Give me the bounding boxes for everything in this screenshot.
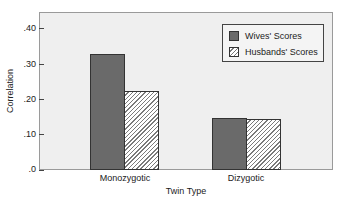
y-tick-label: .20 [23, 94, 36, 104]
bar-dizygotic-husbands [246, 119, 281, 170]
x-tick-label-dizygotic: Dizygotic [228, 173, 265, 183]
legend-label: Husbands' Scores [245, 47, 318, 57]
y-axis-label: Correlation [5, 69, 15, 113]
y-tick-0 [39, 170, 44, 171]
y-tick-20 [39, 99, 44, 100]
bar-dizygotic-wives [212, 118, 247, 170]
y-tick-label: .30 [23, 59, 36, 69]
y-tick-label: .0 [28, 164, 36, 174]
x-axis-label: Twin Type [166, 186, 206, 196]
y-tick-30 [39, 64, 44, 65]
legend-item-husbands: Husbands' Scores [229, 46, 318, 58]
legend-label: Wives' Scores [245, 31, 302, 41]
bar-monozygotic-wives [90, 54, 125, 170]
bar-monozygotic-husbands [124, 91, 159, 170]
y-tick-40 [39, 28, 44, 29]
y-tick-label: .10 [23, 129, 36, 139]
y-tick-10 [39, 134, 44, 135]
hatched-swatch-icon [229, 47, 239, 57]
x-tick-label-monozygotic: Monozygotic [100, 173, 151, 183]
solid-swatch-icon [229, 31, 239, 41]
legend: Wives' Scores Husbands' Scores [222, 24, 324, 62]
legend-item-wives: Wives' Scores [229, 30, 302, 42]
y-tick-label: .40 [23, 23, 36, 33]
